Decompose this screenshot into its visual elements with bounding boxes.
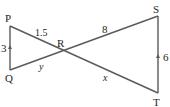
segment-qs: [10, 16, 158, 70]
length-rs-label: 8: [102, 23, 108, 35]
length-st-label: 6: [163, 51, 169, 63]
parallel-arrow-icon-st: [156, 54, 160, 58]
point-s-label: S: [153, 3, 159, 15]
point-p-label: P: [5, 12, 11, 24]
parallel-arrow-icon-pq: [8, 45, 12, 49]
length-pr-label: 1.5: [35, 27, 48, 38]
similar-triangles-diagram: P Q R S T 3 1.5 y 8 x 6: [0, 0, 170, 107]
length-qr-label: y: [38, 61, 44, 72]
point-r-label: R: [57, 37, 65, 49]
segment-pt: [10, 26, 158, 93]
point-t-label: T: [153, 96, 160, 107]
point-q-label: Q: [5, 72, 13, 84]
length-rt-label: x: [102, 72, 108, 83]
length-pq-label: 3: [1, 42, 7, 54]
